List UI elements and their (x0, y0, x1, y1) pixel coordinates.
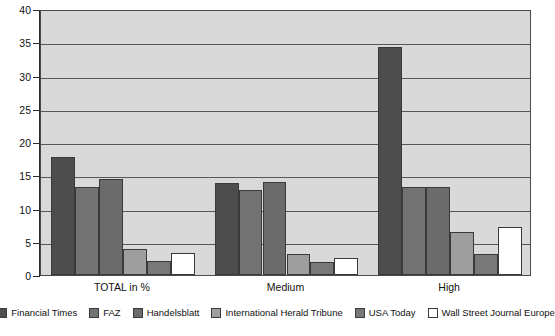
legend-item[interactable]: Wall Street Journal Europe (428, 308, 555, 318)
legend-item[interactable]: Handelsblatt (133, 308, 200, 318)
legend-label: International Herald Tribune (225, 308, 342, 318)
bar (426, 187, 450, 275)
legend-label: Wall Street Journal Europe (442, 308, 555, 318)
legend: Financial TimesFAZHandelsblattInternatio… (0, 305, 552, 321)
legend-swatch-icon (133, 308, 143, 318)
y-axis-tick (33, 43, 40, 44)
bar (171, 253, 195, 275)
y-axis-tick-label: 30 (0, 72, 31, 83)
legend-label: Financial Times (11, 308, 77, 318)
bar (123, 249, 147, 275)
legend-swatch-icon (355, 308, 365, 318)
legend-item[interactable]: FAZ (89, 308, 120, 318)
bar (498, 227, 522, 276)
y-axis-tick (33, 243, 40, 244)
y-axis-tick (33, 77, 40, 78)
bar (239, 190, 263, 275)
bars-layer (41, 11, 530, 275)
y-axis-tick (33, 110, 40, 111)
y-axis-tick-label: 10 (0, 205, 31, 216)
y-axis-tick-label: 35 (0, 38, 31, 49)
y-axis-tick-label: 20 (0, 138, 31, 149)
y-axis-tick-label: 5 (0, 238, 31, 249)
plot-area (40, 10, 531, 276)
x-axis-category-label: TOTAL in % (40, 281, 204, 293)
legend-swatch-icon (89, 308, 99, 318)
legend-label: Handelsblatt (147, 308, 200, 318)
y-axis-tick-label: 0 (0, 271, 31, 282)
bar (334, 258, 358, 275)
bar (99, 179, 123, 275)
bar (474, 254, 498, 275)
x-axis-category-label: Medium (204, 281, 368, 293)
bar (402, 187, 426, 275)
y-axis-tick-label: 25 (0, 105, 31, 116)
bar (215, 183, 239, 275)
y-axis-tick (33, 10, 40, 11)
bar (287, 254, 311, 275)
y-axis-tick-label: 15 (0, 171, 31, 182)
legend-swatch-icon (0, 308, 7, 318)
bar (310, 262, 334, 275)
y-axis-tick (33, 210, 40, 211)
bar (51, 157, 75, 275)
legend-item[interactable]: Financial Times (0, 308, 77, 318)
legend-item[interactable]: USA Today (355, 308, 416, 318)
legend-swatch-icon (428, 308, 438, 318)
legend-label: USA Today (369, 308, 416, 318)
bar (450, 232, 474, 275)
y-axis-tick (33, 276, 40, 277)
legend-label: FAZ (103, 308, 120, 318)
bar (378, 47, 402, 275)
legend-item[interactable]: International Herald Tribune (211, 308, 342, 318)
y-axis-tick-label: 40 (0, 5, 31, 16)
legend-swatch-icon (211, 308, 221, 318)
bar (263, 182, 287, 275)
bar (147, 261, 171, 275)
y-axis-tick (33, 176, 40, 177)
x-axis-category-label: High (367, 281, 531, 293)
bar (75, 187, 99, 275)
y-axis-tick (33, 143, 40, 144)
